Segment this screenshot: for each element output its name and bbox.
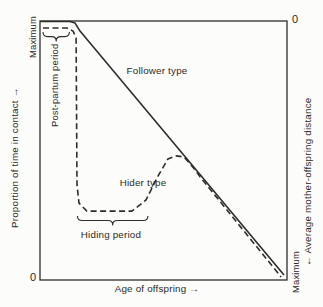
follower-type-label: Follower type	[127, 65, 188, 76]
hiding-period-label: Hiding period	[81, 229, 141, 240]
origin-zero-label: 0	[30, 271, 36, 283]
plot-frame	[40, 21, 287, 280]
left-axis-title: Proportion of time in contact →	[9, 87, 20, 228]
x-axis-title: Age of offspring →	[115, 283, 200, 294]
right-axis-title: ← Average mother-offspring distance	[302, 97, 313, 266]
mother-offspring-contact-chart: Maximum Proportion of time in contact → …	[0, 0, 323, 307]
figure: Maximum Proportion of time in contact → …	[0, 0, 323, 307]
left-axis-maximum-label: Maximum	[27, 16, 38, 58]
right-axis-zero-label: 0	[292, 13, 298, 25]
hider-type-label: Hider type	[120, 177, 167, 188]
right-axis-maximum-label: Maximum	[290, 251, 301, 293]
hiding-period-brace	[78, 216, 148, 225]
post-partum-period-label: Post-partum period	[49, 44, 60, 127]
post-partum-brace	[43, 32, 69, 41]
